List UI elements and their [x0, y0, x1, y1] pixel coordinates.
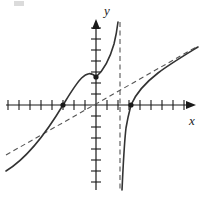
point-y-intercept	[93, 74, 98, 79]
y-axis-label: y	[104, 3, 110, 19]
x-axis-arrow-icon	[186, 101, 196, 109]
point-x-intercept-right	[128, 102, 133, 107]
rational-function-figure: y x	[0, 0, 203, 198]
curve-right-branch	[122, 47, 198, 190]
graph-canvas	[0, 0, 203, 198]
point-x-intercept-left	[60, 102, 65, 107]
curve-left-branch	[6, 22, 118, 171]
slant-asymptote-line	[6, 46, 198, 155]
x-axis-label: x	[189, 113, 195, 129]
